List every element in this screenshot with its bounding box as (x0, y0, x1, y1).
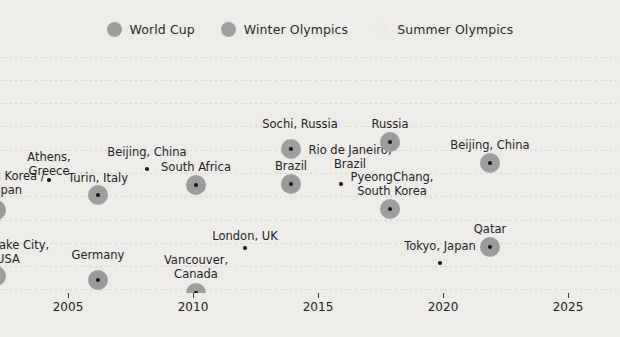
data-point-label: Russia (372, 118, 409, 132)
marker-center-dot (438, 261, 441, 264)
data-point-marker[interactable] (88, 270, 108, 290)
marker-center-dot (339, 182, 342, 185)
marker-center-dot (96, 193, 99, 196)
axis-tick-label: 2010 (178, 300, 209, 314)
data-point-label: South Korea / Japan (0, 170, 45, 197)
data-point-marker[interactable] (42, 173, 56, 187)
gridline (0, 126, 620, 127)
data-point-label: Rio de Janeiro, Brazil (308, 144, 391, 171)
data-point-marker[interactable] (480, 237, 500, 257)
marker-center-dot (388, 207, 391, 210)
data-point-marker[interactable] (433, 256, 447, 270)
data-point-marker[interactable] (334, 177, 348, 191)
data-point-marker[interactable] (281, 174, 301, 194)
axis-tick-label: 2005 (53, 300, 84, 314)
circle-marker-icon (107, 22, 122, 37)
gridline (0, 57, 620, 58)
scatter-chart-figure: World CupWinter OlympicsSummer Olympics … (0, 0, 620, 337)
marker-center-dot (47, 178, 50, 181)
data-point-label: Sochi, Russia (262, 118, 337, 132)
data-point-marker[interactable] (281, 139, 301, 159)
data-point-label: Vancouver, Canada (164, 254, 228, 281)
marker-center-dot (289, 147, 292, 150)
data-point-marker[interactable] (186, 175, 206, 195)
gridline (0, 220, 620, 221)
marker-center-dot (488, 161, 491, 164)
data-point-label: Qatar (474, 223, 506, 237)
data-point-marker[interactable] (480, 153, 500, 173)
circle-marker-icon (221, 22, 236, 37)
legend-item-summer-olympics[interactable]: Summer Olympics (374, 22, 513, 37)
axis-tick (193, 293, 194, 298)
data-point-marker[interactable] (380, 199, 400, 219)
gridline (0, 150, 620, 151)
axis-tick-label: 2015 (303, 300, 334, 314)
gridline (0, 266, 620, 267)
data-point-marker[interactable] (238, 241, 252, 255)
axis-tick-label: 2025 (553, 300, 584, 314)
marker-center-dot (96, 278, 99, 281)
data-point-marker[interactable] (186, 283, 206, 293)
marker-center-dot (145, 167, 148, 170)
axis-tick (443, 293, 444, 298)
axis-tick (68, 293, 69, 298)
marker-center-dot (289, 182, 292, 185)
data-point-marker[interactable] (88, 185, 108, 205)
legend-item-winter-olympics[interactable]: Winter Olympics (221, 22, 348, 37)
data-point-label: Turin, Italy (68, 172, 128, 186)
marker-center-dot (194, 183, 197, 186)
gridline (0, 103, 620, 104)
gridline (0, 243, 620, 244)
legend-item-label: Winter Olympics (244, 22, 348, 37)
gridline (0, 173, 620, 174)
axis-tick (318, 293, 319, 298)
legend-item-label: World Cup (130, 22, 195, 37)
marker-center-dot (243, 246, 246, 249)
data-point-label: Germany (72, 249, 125, 263)
plot-area: Salt Lake City, USASouth Korea / JapanTu… (0, 45, 620, 293)
data-point-label: Brazil (275, 160, 307, 174)
data-point-marker[interactable] (0, 266, 6, 286)
legend-item-label: Summer Olympics (397, 22, 513, 37)
marker-center-dot (388, 140, 391, 143)
marker-center-dot (488, 245, 491, 248)
data-point-marker[interactable] (380, 132, 400, 152)
data-point-label: PyeongChang, South Korea (350, 171, 433, 198)
gridline (0, 80, 620, 81)
legend-item-world-cup[interactable]: World Cup (107, 22, 195, 37)
axis-tick-label: 2020 (428, 300, 459, 314)
data-point-label: Beijing, China (107, 146, 186, 160)
x-axis: 20052010201520202025 (0, 293, 620, 337)
data-point-marker[interactable] (140, 162, 154, 176)
chart-legend: World CupWinter OlympicsSummer Olympics (0, 16, 620, 42)
axis-tick (568, 293, 569, 298)
data-point-marker[interactable] (0, 200, 6, 220)
circle-marker-icon (374, 22, 389, 37)
